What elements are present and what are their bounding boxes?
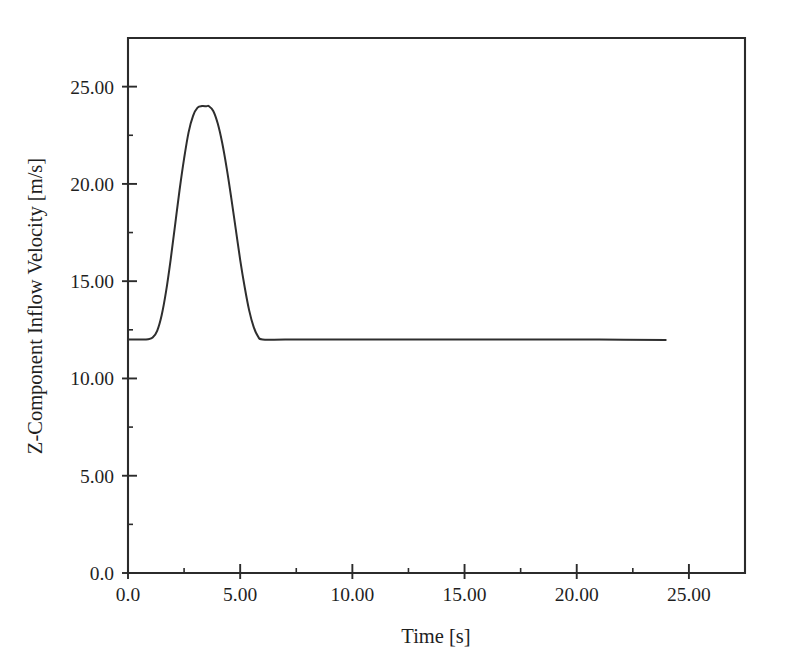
x-tick-label: 20.00 (555, 584, 599, 605)
x-tick-label: 0.0 (116, 584, 140, 605)
x-tick-label: 15.00 (443, 584, 487, 605)
y-tick-label: 5.00 (80, 466, 114, 487)
x-tick-label: 5.00 (223, 584, 257, 605)
y-tick-label: 10.00 (70, 368, 114, 389)
y-tick-label: 25.00 (70, 77, 114, 98)
x-tick-label: 25.00 (667, 584, 711, 605)
x-tick-label: 10.00 (330, 584, 374, 605)
figure-canvas: 0.05.0010.0015.0020.0025.00 0.05.0010.00… (0, 0, 786, 669)
y-axis-title: Z-Component Inflow Velocity [m/s] (24, 158, 47, 454)
chart-background (0, 0, 786, 669)
y-tick-label: 20.00 (70, 174, 114, 195)
line-chart: 0.05.0010.0015.0020.0025.00 0.05.0010.00… (0, 0, 786, 669)
y-tick-label: 15.00 (70, 271, 114, 292)
x-axis-title: Time [s] (401, 625, 470, 647)
y-tick-label: 0.0 (90, 563, 114, 584)
